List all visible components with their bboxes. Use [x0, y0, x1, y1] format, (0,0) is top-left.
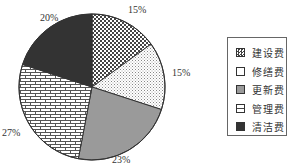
- slice-value-label: 15%: [172, 67, 190, 78]
- legend-item: 管理费: [236, 102, 285, 114]
- legend-item: 清洁费: [236, 120, 285, 132]
- pie-slices: [19, 14, 165, 160]
- legend-label: 修缮费: [252, 64, 285, 79]
- legend-label: 清洁费: [252, 119, 285, 134]
- legend-swatch-icon: [236, 67, 245, 76]
- legend-label: 更新费: [252, 82, 285, 97]
- legend-item: 建设费: [236, 46, 285, 58]
- legend-swatch-icon: [236, 122, 245, 131]
- legend-item: 修缮费: [236, 65, 285, 77]
- legend-label: 建设费: [252, 45, 285, 60]
- slice-value-label: 20%: [40, 12, 58, 23]
- slice-value-label: 27%: [2, 127, 20, 138]
- legend-swatch-icon: [236, 85, 245, 94]
- slice-value-label: 23%: [112, 154, 130, 165]
- slice-value-label: 15%: [128, 4, 146, 15]
- legend-item: 更新费: [236, 83, 285, 95]
- legend: 建设费修缮费更新费管理费清洁费: [227, 37, 287, 136]
- legend-swatch-icon: [236, 104, 245, 113]
- legend-label: 管理费: [252, 101, 285, 116]
- legend-swatch-icon: [236, 48, 245, 57]
